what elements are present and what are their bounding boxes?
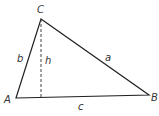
side-b-label: b bbox=[17, 53, 23, 64]
side-c-label: c bbox=[78, 101, 84, 112]
triangle-abc bbox=[16, 19, 149, 98]
vertex-a-label: A bbox=[3, 94, 11, 105]
vertex-b-label: B bbox=[151, 92, 158, 103]
vertex-c-label: C bbox=[37, 4, 44, 15]
altitude-h-label: h bbox=[45, 55, 51, 66]
triangle-diagram: C A B b h a c bbox=[0, 0, 159, 116]
side-a-label: a bbox=[105, 52, 111, 63]
